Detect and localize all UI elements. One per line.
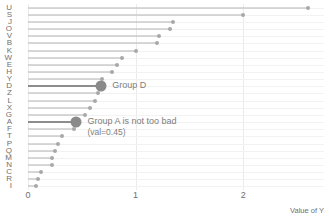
lollipop-stem xyxy=(28,100,95,101)
lollipop-dot[interactable] xyxy=(110,70,114,74)
lollipop-dot[interactable] xyxy=(168,27,172,31)
annotation-d: Group D xyxy=(112,80,146,91)
lollipop-dot[interactable] xyxy=(93,99,97,103)
lollipop-stem xyxy=(28,93,98,94)
lollipop-dot[interactable] xyxy=(36,177,40,181)
lollipop-dot[interactable] xyxy=(96,91,100,95)
lollipop-stem xyxy=(28,79,102,80)
gridline-horizontal xyxy=(28,186,324,187)
lollipop-dot[interactable] xyxy=(96,81,107,92)
lollipop-stem xyxy=(28,114,85,115)
gridline-vertical xyxy=(28,4,29,190)
lollipop-dot[interactable] xyxy=(120,56,124,60)
lollipop-stem xyxy=(28,7,308,8)
lollipop-stem xyxy=(28,21,173,22)
lollipop-stem xyxy=(28,143,58,144)
lollipop-dot[interactable] xyxy=(50,156,54,160)
x-axis-tick-2: 2 xyxy=(241,190,246,200)
lollipop-dot[interactable] xyxy=(71,117,82,128)
lollipop-stem xyxy=(28,150,55,151)
y-axis-tick-labels: USJOVBKWEHYDZLXGAFTPQMNCRI xyxy=(0,4,26,190)
gridline-horizontal xyxy=(28,172,324,173)
lollipop-dot[interactable] xyxy=(50,163,54,167)
lollipop-dot[interactable] xyxy=(171,20,175,24)
gridline-horizontal xyxy=(28,158,324,159)
lollipop-stem xyxy=(28,136,62,137)
gridline-vertical xyxy=(136,4,137,190)
lollipop-stem xyxy=(28,157,52,158)
plot-area: Group DGroup A is not too bad(val=0.45) xyxy=(28,4,324,190)
lollipop-stem xyxy=(28,29,170,30)
lollipop-dot[interactable] xyxy=(155,41,159,45)
lollipop-stem xyxy=(28,43,157,44)
lollipop-stem xyxy=(28,121,76,123)
x-axis-tick-labels: 012 xyxy=(28,190,324,204)
annotation-text: Group D xyxy=(112,80,146,90)
lollipop-stem xyxy=(28,85,101,87)
x-axis-title: Value of Y xyxy=(290,206,324,215)
lollipop-stem xyxy=(28,164,52,165)
lollipop-dot[interactable] xyxy=(306,6,310,10)
annotation-subtext: (val=0.45) xyxy=(87,127,176,138)
gridline-horizontal xyxy=(28,179,324,180)
lollipop-stem xyxy=(28,129,74,130)
lollipop-dot[interactable] xyxy=(60,134,64,138)
lollipop-dot[interactable] xyxy=(72,127,76,131)
lollipop-dot[interactable] xyxy=(88,106,92,110)
lollipop-stem xyxy=(28,50,136,51)
gridline-vertical xyxy=(243,4,244,190)
lollipop-stem xyxy=(28,107,90,108)
lollipop-stem xyxy=(28,71,112,72)
gridline-horizontal xyxy=(28,144,324,145)
lollipop-chart: Group DGroup A is not too bad(val=0.45) … xyxy=(0,0,329,222)
y-axis-tick-i: I xyxy=(10,182,12,190)
lollipop-dot[interactable] xyxy=(134,49,138,53)
annotation-a: Group A is not too bad(val=0.45) xyxy=(87,116,176,138)
lollipop-dot[interactable] xyxy=(39,170,43,174)
x-axis-tick-1: 1 xyxy=(133,190,138,200)
lollipop-dot[interactable] xyxy=(157,34,161,38)
annotation-text: Group A is not too bad xyxy=(87,116,176,126)
lollipop-dot[interactable] xyxy=(34,184,38,188)
gridline-horizontal xyxy=(28,151,324,152)
lollipop-dot[interactable] xyxy=(241,13,245,17)
lollipop-stem xyxy=(28,57,122,58)
lollipop-dot[interactable] xyxy=(115,63,119,67)
lollipop-stem xyxy=(28,14,243,15)
lollipop-stem xyxy=(28,64,117,65)
x-axis-tick-0: 0 xyxy=(25,190,30,200)
lollipop-stem xyxy=(28,36,159,37)
lollipop-dot[interactable] xyxy=(53,149,57,153)
lollipop-dot[interactable] xyxy=(56,142,60,146)
gridline-horizontal xyxy=(28,165,324,166)
